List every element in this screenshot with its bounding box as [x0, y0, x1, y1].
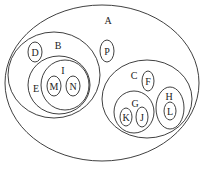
- set-f-label: F: [145, 76, 151, 87]
- set-i-label: I: [61, 65, 64, 76]
- set-h-label: H: [165, 91, 172, 102]
- set-l-label: L: [167, 106, 173, 117]
- set-p-label: P: [104, 46, 110, 57]
- set-c-boundary: [102, 60, 192, 138]
- set-i-boundary: [41, 60, 89, 110]
- set-n-label: N: [69, 81, 76, 92]
- set-g-label: G: [131, 98, 138, 109]
- set-e-label: E: [33, 83, 39, 94]
- set-k-label: K: [122, 112, 130, 123]
- set-c-label: C: [131, 70, 138, 81]
- set-d-label: D: [31, 47, 38, 58]
- set-diagram: A B D E I M N P C F G K J H L: [0, 0, 203, 174]
- set-a-label: A: [104, 15, 112, 26]
- set-j-label: J: [140, 112, 144, 123]
- set-b-label: B: [55, 40, 62, 51]
- set-m-label: M: [50, 81, 59, 92]
